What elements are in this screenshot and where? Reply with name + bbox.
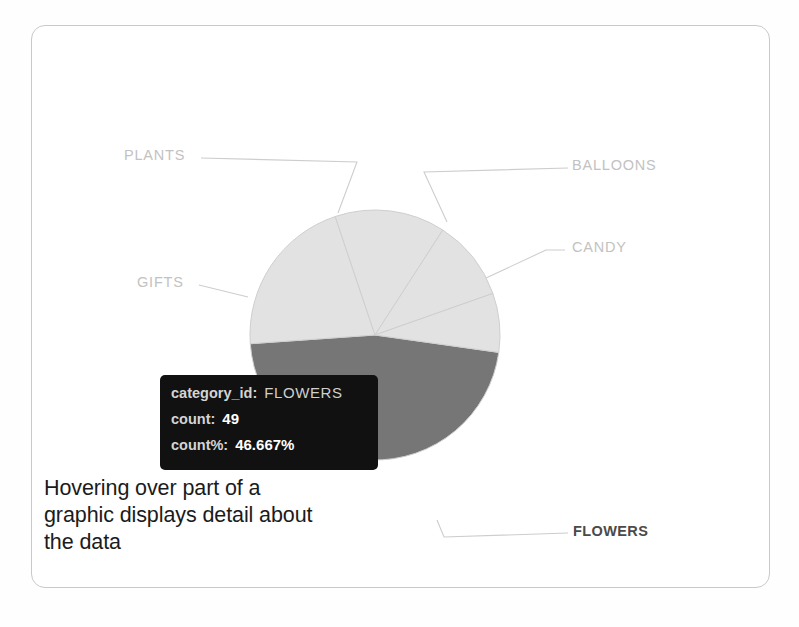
tooltip-row-category: category_id: FLOWERS <box>171 384 378 410</box>
annotation-caption-line-2: graphic displays detail about <box>44 502 344 529</box>
hover-tooltip: category_id: FLOWERS count: 49 count%: 4… <box>160 375 378 470</box>
tooltip-row-count: count: 49 <box>171 410 378 436</box>
annotation-caption: Hovering over part of a graphic displays… <box>44 475 344 556</box>
tooltip-value-count-percent: 46.667% <box>235 436 294 453</box>
tooltip-row-count-percent: count%: 46.667% <box>171 436 378 462</box>
tooltip-value-category-id: FLOWERS <box>264 384 342 401</box>
tooltip-value-count: 49 <box>222 410 239 427</box>
annotation-caption-line-1: Hovering over part of a <box>44 475 344 502</box>
tooltip-key-count-percent: count%: <box>171 437 228 453</box>
annotation-caption-line-3: the data <box>44 529 344 556</box>
tooltip-key-count: count: <box>171 411 215 427</box>
tooltip-key-category-id: category_id: <box>171 385 257 401</box>
